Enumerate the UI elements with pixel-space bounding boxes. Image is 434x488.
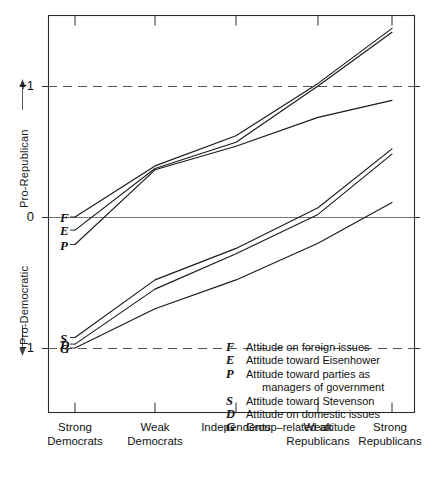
legend-text-P-continuation: managers of government [246, 381, 384, 394]
legend-item-P: P Attitude toward parties as [226, 368, 426, 381]
legend-symbol-F: F [226, 341, 246, 354]
legend-text-D: Attitude on domestic issues [246, 408, 380, 421]
legend-symbol-E: E [226, 354, 246, 367]
x-tick-label-independents: Independents [194, 421, 278, 435]
legend-text-P: Attitude toward parties as [246, 368, 370, 381]
x-tick-label-weak-democrats: Weak Democrats [113, 421, 197, 448]
x-tick-label-strong-democrats: Strong Democrats [33, 421, 117, 448]
legend-item-D: D Attitude on domestic issues [226, 408, 426, 421]
legend-item-E: E Attitude toward Eisenhower [226, 354, 426, 367]
legend-text-F: Attitude on foreign issues [246, 341, 370, 354]
y-axis-title-pro-republican: Pro-Republican [18, 129, 30, 208]
y-tick-label-plus-one: +1 [8, 78, 34, 93]
series-line-S [75, 149, 392, 338]
legend-symbol-S: S [226, 395, 246, 408]
x-tick-label-strong-republicans: Strong Republicans [346, 421, 434, 448]
legend-text-E: Attitude toward Eisenhower [246, 354, 380, 367]
chart-figure: +1 0 −1 Pro-Republican Pro-Democratic F … [0, 0, 434, 488]
series-line-G [75, 203, 392, 348]
legend-symbol-D: D [226, 408, 246, 421]
series-line-F [75, 28, 392, 217]
legend-text-S: Attitude toward Stevenson [246, 395, 374, 408]
series-key-G: G [60, 341, 69, 357]
series-line-P [75, 100, 392, 244]
y-tick-label-zero: 0 [8, 209, 34, 224]
legend-symbol-P: P [226, 368, 246, 381]
series-key-E: E [60, 223, 69, 239]
top-tick-marks [75, 16, 392, 26]
legend-item-S: S Attitude toward Stevenson [226, 395, 426, 408]
y-axis-title-pro-democratic: Pro-Democratic [18, 266, 30, 345]
legend-item-F: F Attitude on foreign issues [226, 341, 426, 354]
legend-item-P-continuation: managers of government [226, 381, 426, 394]
series-key-P: P [60, 238, 68, 254]
